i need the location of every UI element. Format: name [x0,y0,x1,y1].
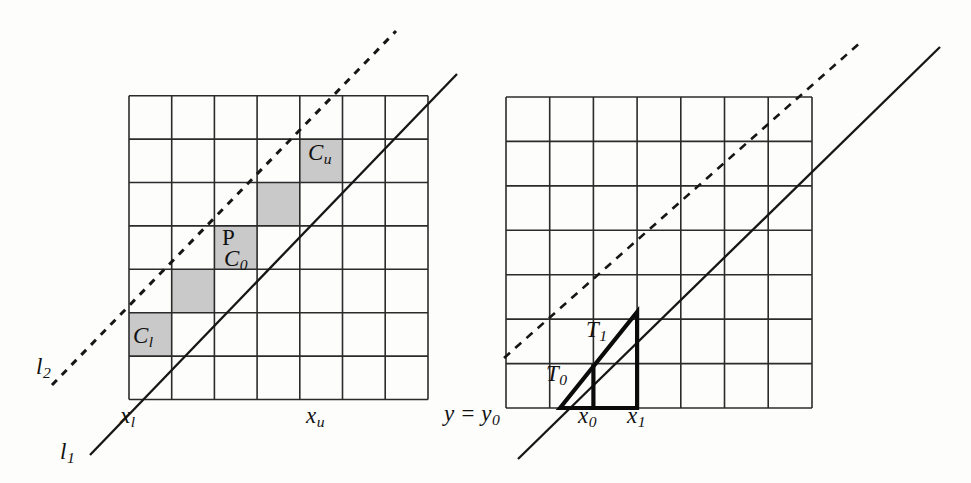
label-T0: T0 [546,362,567,388]
label-T1: T1 [586,318,607,344]
label-Cl: Cl [133,324,153,350]
left-grid [129,96,428,400]
label-C0: C0 [224,247,248,273]
line-l2 [52,31,396,385]
label-l2: l2 [36,355,51,381]
shaded-cell-mid-upper [257,183,300,226]
shaded-cell-mid-lower [172,269,215,312]
label-xl: xl [120,404,135,430]
right-solid-line [518,47,940,459]
label-xu: xu [306,404,325,430]
label-x0: x0 [578,404,597,430]
right-panel-group [504,41,940,459]
left-panel-group [52,31,457,455]
line-l1 [90,74,457,455]
label-x1: x1 [627,404,646,430]
figure-root: l2 l1 xl xu P C0 Cl Cu y = y0 x0 x1 T1 T… [0,0,971,483]
label-y-equals-y0: y = y0 [444,402,500,428]
label-Cu: Cu [308,141,332,167]
right-dashed-line [504,41,862,358]
label-l1: l1 [60,440,75,466]
